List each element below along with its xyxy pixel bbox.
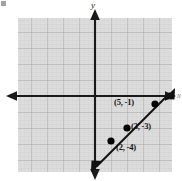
y-axis-arrow-top <box>90 9 100 20</box>
x-axis-label: x <box>177 90 181 100</box>
point-label-3--3: (3, -3) <box>131 121 151 131</box>
y-axis-label: y <box>91 0 95 10</box>
point-label-5--1: (5, -1) <box>114 97 134 107</box>
x-axis-arrow-left <box>6 91 17 101</box>
data-point-2--4 <box>107 137 114 144</box>
graph-figure: (5, -1) (3, -3) (2, -4) y x <box>0 0 182 181</box>
point-label-2--4: (2, -4) <box>116 142 136 152</box>
data-point-5--1 <box>151 100 158 107</box>
data-point-3--3 <box>123 124 130 131</box>
coordinate-plane-svg <box>0 0 182 181</box>
